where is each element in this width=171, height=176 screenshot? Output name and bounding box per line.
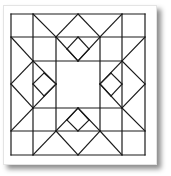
quilt-line xyxy=(44,84,56,96)
quilt-line xyxy=(100,73,111,84)
quilt-line xyxy=(111,84,122,96)
quilt-line xyxy=(56,14,78,37)
quilt-line xyxy=(33,73,44,84)
quilt-line xyxy=(78,120,89,131)
quilt-line xyxy=(56,131,78,155)
quilt-line xyxy=(33,14,56,37)
quilt-line xyxy=(67,120,78,131)
quilt-block-diagram xyxy=(0,0,171,176)
quilt-line xyxy=(78,131,100,155)
quilt-line xyxy=(11,108,33,131)
quilt-line xyxy=(122,108,145,131)
quilt-line xyxy=(67,49,78,61)
quilt-line xyxy=(78,14,100,37)
quilt-line xyxy=(67,37,78,49)
quilt-line xyxy=(11,84,33,108)
quilt-line xyxy=(44,73,56,84)
quilt-line xyxy=(122,37,145,61)
quilt-line xyxy=(100,84,111,96)
quilt-line xyxy=(33,131,56,155)
quilt-line xyxy=(122,61,145,84)
quilt-line xyxy=(100,131,122,155)
quilt-line xyxy=(78,108,89,120)
quilt-line xyxy=(33,84,44,96)
quilt-line xyxy=(78,49,89,61)
quilt-line xyxy=(67,108,78,120)
quilt-line xyxy=(122,84,145,108)
quilt-line xyxy=(111,73,122,84)
quilt-line xyxy=(11,61,33,84)
quilt-line xyxy=(100,14,122,37)
quilt-line xyxy=(11,37,33,61)
quilt-line xyxy=(78,37,89,49)
